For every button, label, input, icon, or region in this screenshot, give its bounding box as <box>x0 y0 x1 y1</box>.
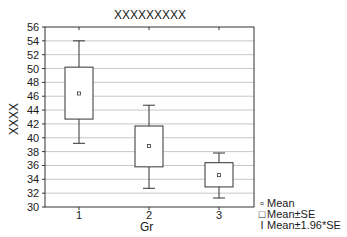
y-tick-label: 42 <box>27 118 39 130</box>
y-tick-label: 32 <box>27 187 39 199</box>
whisker-icon: I <box>257 220 267 231</box>
chart-title: XXXXXXXXX <box>0 8 300 22</box>
x-axis-label: Gr <box>140 220 153 234</box>
x-tick-label: 3 <box>216 209 222 221</box>
y-tick-label: 38 <box>27 146 39 158</box>
y-tick-label: 52 <box>27 49 39 61</box>
y-tick-label: 48 <box>27 76 39 88</box>
y-axis-label: XXXX <box>7 103 21 135</box>
y-tick-label: 56 <box>27 21 39 33</box>
y-tick-label: 54 <box>27 35 39 47</box>
x-tick-label: 2 <box>146 209 152 221</box>
y-tick-label: 46 <box>27 90 39 102</box>
y-tick-label: 30 <box>27 201 39 213</box>
y-tick-label: 44 <box>27 104 39 116</box>
y-tick-label: 34 <box>27 173 39 185</box>
y-tick-label: 40 <box>27 132 39 144</box>
box-plot <box>0 0 347 237</box>
y-tick-label: 50 <box>27 63 39 75</box>
legend-item-ci: IMean±1.96*SE <box>257 220 341 231</box>
y-tick-label: 36 <box>27 159 39 171</box>
x-tick-label: 1 <box>76 209 82 221</box>
